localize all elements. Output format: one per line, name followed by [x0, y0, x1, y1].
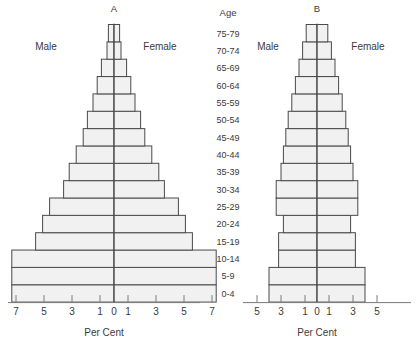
- bar-female-B-65-69: [317, 59, 335, 76]
- bar-male-B-70-74: [303, 42, 317, 59]
- bar-female-A-50-54: [114, 111, 141, 128]
- pyramid-panel-B: BMaleFemale5310135Per Cent: [243, 3, 411, 338]
- axis-tick-label-B: 0: [314, 306, 320, 317]
- axis-tick-label-B: 5: [254, 306, 260, 317]
- bar-female-A-35-39: [114, 163, 159, 180]
- bar-male-B-75-79: [306, 25, 317, 42]
- age-group-label: 5-9: [221, 271, 234, 281]
- age-group-label: 70-74: [216, 46, 239, 56]
- panel-title-A: A: [111, 3, 118, 14]
- bar-female-A-30-34: [114, 181, 164, 198]
- bar-female-B-5-9: [317, 267, 365, 284]
- bar-male-A-5-9: [12, 267, 114, 284]
- bar-female-B-25-29: [317, 198, 358, 215]
- bar-female-B-45-49: [317, 129, 348, 146]
- male-label-B: Male: [257, 41, 279, 52]
- age-group-label: 25-29: [216, 202, 239, 212]
- bar-female-A-60-64: [114, 77, 131, 94]
- bar-female-A-10-14: [114, 250, 216, 267]
- bar-male-A-10-14: [12, 250, 114, 267]
- age-group-label: 65-69: [216, 63, 239, 73]
- bar-female-B-30-34: [317, 181, 358, 198]
- bar-male-A-0-4: [12, 285, 114, 302]
- panel-title-B: B: [314, 3, 320, 14]
- bar-female-B-0-4: [317, 285, 365, 302]
- age-group-label: 20-24: [216, 219, 239, 229]
- bar-male-A-50-54: [87, 111, 114, 128]
- axis-tick-label-A: 1: [125, 306, 131, 317]
- bar-female-B-55-59: [317, 94, 342, 111]
- axis-tick-label-A: 3: [69, 306, 75, 317]
- bar-male-A-55-59: [93, 94, 114, 111]
- bar-male-A-15-19: [36, 233, 114, 250]
- bar-female-B-40-44: [317, 146, 351, 163]
- female-label-B: Female: [351, 41, 385, 52]
- pyramid-panel-A: AMaleFemale753101357Per Cent: [8, 3, 216, 338]
- bar-male-A-20-24: [43, 215, 114, 232]
- male-label-A: Male: [35, 41, 57, 52]
- axis-tick-label-A: 3: [153, 306, 159, 317]
- bar-male-A-75-79: [108, 25, 114, 42]
- bar-male-B-45-49: [286, 129, 317, 146]
- bar-male-B-0-4: [269, 285, 317, 302]
- bar-male-B-50-54: [288, 111, 317, 128]
- age-group-label: 0-4: [221, 289, 234, 299]
- bar-female-B-35-39: [317, 163, 353, 180]
- bar-female-B-20-24: [317, 215, 351, 232]
- bar-female-A-70-74: [114, 42, 121, 59]
- bar-female-B-60-64: [317, 77, 339, 94]
- bar-male-B-15-19: [279, 233, 317, 250]
- axis-title-A: Per Cent: [84, 327, 124, 338]
- bar-male-B-40-44: [283, 146, 317, 163]
- axis-tick-label-B: 5: [374, 306, 380, 317]
- bar-female-B-50-54: [317, 111, 346, 128]
- bar-female-A-0-4: [114, 285, 216, 302]
- bar-male-B-30-34: [276, 181, 317, 198]
- bar-female-A-45-49: [114, 129, 145, 146]
- bar-female-B-70-74: [317, 42, 331, 59]
- age-group-label: 55-59: [216, 98, 239, 108]
- age-column-header: Age: [220, 7, 237, 18]
- axis-tick-label-A: 1: [97, 306, 103, 317]
- bar-male-A-35-39: [69, 163, 114, 180]
- axis-tick-label-B: 1: [326, 306, 332, 317]
- bar-male-A-45-49: [83, 129, 114, 146]
- bar-female-B-75-79: [317, 25, 328, 42]
- female-label-A: Female: [143, 41, 177, 52]
- axis-tick-label-B: 3: [350, 306, 356, 317]
- bar-male-B-25-29: [276, 198, 317, 215]
- age-group-label: 30-34: [216, 185, 239, 195]
- bar-male-B-65-69: [299, 59, 317, 76]
- age-group-label: 75-79: [216, 29, 239, 39]
- bar-male-A-65-69: [101, 59, 114, 76]
- age-group-label: 45-49: [216, 133, 239, 143]
- bar-male-A-25-29: [50, 198, 114, 215]
- bar-male-B-55-59: [292, 94, 317, 111]
- population-pyramid-figure: Age75-7970-7465-6960-6455-5950-5445-4940…: [0, 0, 416, 348]
- age-group-label: 10-14: [216, 254, 239, 264]
- bar-male-B-5-9: [269, 267, 317, 284]
- axis-tick-label-B: 1: [302, 306, 308, 317]
- age-group-label: 60-64: [216, 81, 239, 91]
- bar-female-B-15-19: [317, 233, 355, 250]
- bar-male-A-40-44: [76, 146, 114, 163]
- age-group-label: 50-54: [216, 115, 239, 125]
- bar-male-A-70-74: [107, 42, 114, 59]
- figure-canvas: Age75-7970-7465-6960-6455-5950-5445-4940…: [0, 0, 416, 348]
- bar-female-A-5-9: [114, 267, 216, 284]
- bar-female-A-75-79: [114, 25, 120, 42]
- age-group-label: 15-19: [216, 237, 239, 247]
- bar-male-B-10-14: [279, 250, 317, 267]
- age-group-label: 35-39: [216, 167, 239, 177]
- bar-male-A-60-64: [97, 77, 114, 94]
- axis-tick-label-B: 3: [278, 306, 284, 317]
- bar-male-B-20-24: [283, 215, 317, 232]
- bar-female-A-40-44: [114, 146, 152, 163]
- bar-female-A-15-19: [114, 233, 192, 250]
- bar-female-B-10-14: [317, 250, 355, 267]
- axis-tick-label-A: 7: [13, 306, 19, 317]
- axis-tick-label-A: 5: [41, 306, 47, 317]
- bar-female-A-65-69: [114, 59, 127, 76]
- axis-tick-label-A: 0: [111, 306, 117, 317]
- bar-female-A-25-29: [114, 198, 178, 215]
